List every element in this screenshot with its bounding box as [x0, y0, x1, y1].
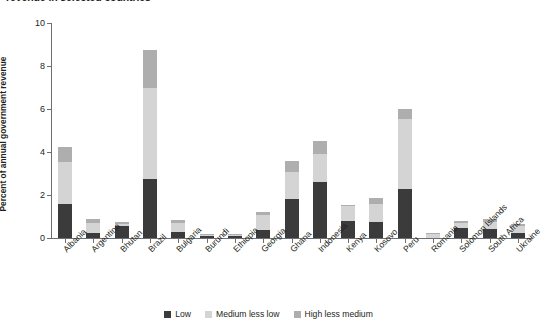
bar-segment[interactable]	[398, 119, 412, 189]
bar-segment[interactable]	[86, 219, 100, 223]
legend-label: High less medium	[305, 309, 373, 319]
bar-group[interactable]	[341, 23, 355, 238]
plot-area: 0246810	[51, 23, 532, 238]
bar-segment[interactable]	[341, 206, 355, 221]
legend-label: Medium less low	[216, 309, 280, 319]
bar-group[interactable]	[369, 23, 383, 238]
legend-label: Low	[175, 309, 191, 319]
bar-segment[interactable]	[369, 204, 383, 222]
bar-group[interactable]	[256, 23, 270, 238]
bar-segment[interactable]	[86, 223, 100, 233]
y-tick-mark	[47, 109, 51, 110]
bar-segment[interactable]	[369, 222, 383, 238]
legend-swatch-icon	[164, 311, 171, 318]
bar-segment[interactable]	[341, 205, 355, 206]
bar-group[interactable]	[200, 23, 214, 238]
chart-title: revenue in selected countries	[6, 0, 151, 3]
bar-segment[interactable]	[228, 235, 242, 236]
bar-group[interactable]	[483, 23, 497, 238]
bar-segment[interactable]	[58, 204, 72, 238]
bar-group[interactable]	[115, 23, 129, 238]
bar-group[interactable]	[426, 23, 440, 238]
bar-segment[interactable]	[426, 233, 440, 234]
bar-segment[interactable]	[454, 221, 468, 223]
legend-swatch-icon	[205, 311, 212, 318]
chart-legend: LowMedium less lowHigh less medium	[0, 309, 537, 319]
bar-group[interactable]	[454, 23, 468, 238]
bar-segment[interactable]	[313, 141, 327, 154]
bar-segment[interactable]	[143, 88, 157, 179]
y-tick-mark	[47, 238, 51, 239]
y-tick-label: 0	[40, 233, 45, 243]
bar-group[interactable]	[313, 23, 327, 238]
y-tick-mark	[47, 152, 51, 153]
bar-group[interactable]	[86, 23, 100, 238]
bar-segment[interactable]	[398, 109, 412, 119]
bar-segment[interactable]	[58, 162, 72, 204]
y-tick-label: 4	[40, 147, 45, 157]
bar-segment[interactable]	[228, 234, 242, 235]
bar-group[interactable]	[58, 23, 72, 238]
y-tick-mark	[47, 23, 51, 24]
bar-segment[interactable]	[369, 198, 383, 203]
bar-segment[interactable]	[398, 189, 412, 238]
bar-segment[interactable]	[285, 172, 299, 199]
y-tick-mark	[47, 66, 51, 67]
bar-segment[interactable]	[171, 223, 185, 232]
bar-segment[interactable]	[285, 161, 299, 173]
bar-segment[interactable]	[200, 234, 214, 235]
bar-segment[interactable]	[313, 182, 327, 238]
legend-item[interactable]: High less medium	[294, 309, 373, 319]
bar-segment[interactable]	[143, 50, 157, 88]
legend-swatch-icon	[294, 311, 301, 318]
bar-segment[interactable]	[313, 154, 327, 182]
bar-segment[interactable]	[171, 220, 185, 223]
bar-group[interactable]	[171, 23, 185, 238]
y-tick-mark	[47, 195, 51, 196]
legend-item[interactable]: Medium less low	[205, 309, 280, 319]
bar-group[interactable]	[398, 23, 412, 238]
y-tick-label: 10	[35, 18, 45, 28]
bar-segment[interactable]	[256, 215, 270, 230]
legend-item[interactable]: Low	[164, 309, 191, 319]
y-tick-label: 2	[40, 190, 45, 200]
bar-group[interactable]	[511, 23, 525, 238]
bar-group[interactable]	[143, 23, 157, 238]
y-tick-label: 8	[40, 61, 45, 71]
bar-segment[interactable]	[200, 235, 214, 236]
bar-group[interactable]	[285, 23, 299, 238]
bar-segment[interactable]	[143, 179, 157, 238]
y-axis-title: Percent of annual government revenue	[0, 34, 8, 234]
bar-segment[interactable]	[58, 147, 72, 162]
bar-group[interactable]	[228, 23, 242, 238]
bar-segment[interactable]	[256, 212, 270, 215]
y-tick-label: 6	[40, 104, 45, 114]
